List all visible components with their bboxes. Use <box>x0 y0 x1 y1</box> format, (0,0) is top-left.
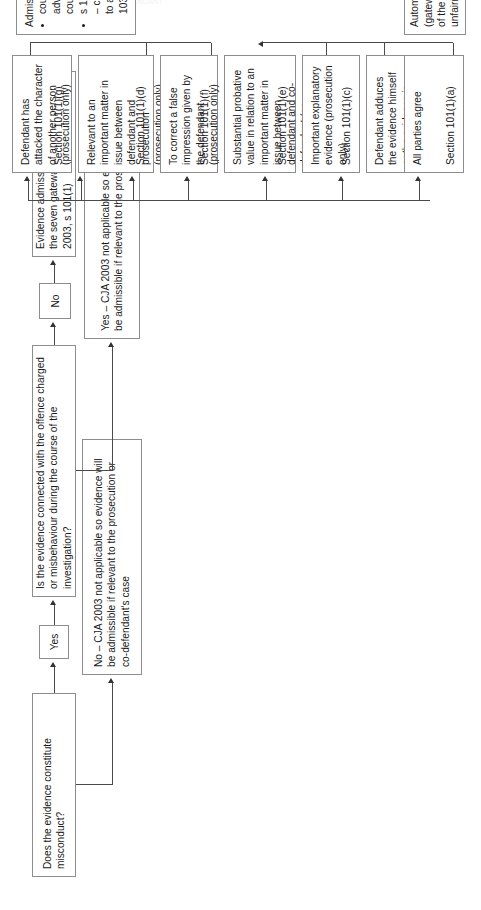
gateway-c-section: Section 101(1)(c) <box>339 87 352 165</box>
gateway-a-section: Section 101(1)(a) <box>443 86 456 165</box>
connector-gateway-spine <box>106 200 430 201</box>
gateway-box-g: Defendant has attacked the character of … <box>12 55 72 173</box>
arrow-gateway-d <box>77 176 83 181</box>
outcome-box-automatic: Automatically admissible if gateway is e… <box>404 0 466 35</box>
node-question-misconduct: Does the evidence constitute misconduct? <box>32 693 76 877</box>
connector-gateway-d <box>81 179 82 201</box>
gateway-a-body: All parties agree <box>412 91 423 165</box>
gateway-box-f: To correct a false impression given by t… <box>160 55 218 173</box>
connector-no-to-gateways <box>54 263 55 283</box>
collector-cond-spine <box>30 42 211 43</box>
outcome-box-conditional: Admissible if gateway established, but: … <box>16 0 136 35</box>
arrow-to-q1-no <box>108 678 114 683</box>
node-label-no: No <box>39 283 71 319</box>
connector-gateway-f <box>133 179 134 201</box>
gateway-box-c: Important explanatory evidence (prosecut… <box>302 55 360 173</box>
arrow-gateway-e <box>184 176 190 181</box>
node-label-yes: Yes <box>39 625 69 659</box>
node-label-yes-text: Yes <box>47 634 60 651</box>
flowchart-page: BAD CHARACTER OF THE DEFENDANT Does the … <box>0 0 481 910</box>
connector-yes-to-q2 <box>54 603 55 625</box>
node-question-connected-text: Is the evidence connected with the offen… <box>33 353 73 589</box>
gateway-f-section: Section 101(1)(f) <box>197 89 210 165</box>
connector-gateway-b <box>342 179 343 201</box>
gateway-box-a: All parties agree Section 101(1)(a) <box>404 55 464 173</box>
outcome-conditional-bullet-2: s 101(1)(d): propensity to commit offenc… <box>76 0 130 14</box>
outcome-automatic-text: Automatically admissible if gateway is e… <box>408 0 462 27</box>
connector-gateway-e <box>188 179 189 201</box>
gateway-box-e: Substantial probative value in relation … <box>224 55 296 173</box>
arrow-to-q2-yes-outcome <box>108 342 114 347</box>
connector-q1-to-no <box>76 784 112 785</box>
arrow-gateway-f <box>129 176 135 181</box>
node-question-misconduct-text: Does the evidence constitute misconduct? <box>40 701 67 869</box>
collector-f-out <box>211 43 212 55</box>
flowchart-rotation-wrapper: Does the evidence constitute misconduct?… <box>0 0 481 910</box>
arrow-to-no <box>50 322 56 327</box>
connector-q2-yes-horizontal <box>112 345 113 471</box>
arrow-to-q2 <box>50 600 56 605</box>
gateway-d-body: Relevant to an important matter in issue… <box>86 80 164 165</box>
connector-q1-to-yes <box>54 665 55 693</box>
collector-g-out <box>30 43 31 55</box>
arrow-gateway-a <box>415 176 421 181</box>
gateway-e-section: Section 101(1)(e) <box>275 86 288 165</box>
gateway-box-d: Relevant to an important matter in issue… <box>78 55 154 173</box>
gateway-g-section: Section 101(1)(g) <box>51 86 64 165</box>
arrow-to-yes <box>50 662 56 667</box>
gateway-f-body: To correct a false impression given by t… <box>168 75 219 165</box>
outcome-conditional-bullets: court must not admit evidence if it woul… <box>36 0 130 27</box>
connector-q2-to-yes-outcome <box>76 470 112 471</box>
connector-gateway-g <box>28 179 29 201</box>
connector-q2-to-no <box>54 325 55 345</box>
node-question-connected: Is the evidence connected with the offen… <box>32 345 76 597</box>
node-outcome-no-misconduct: No – CJA 2003 not applicable so evidence… <box>82 439 142 675</box>
connector-gateway-a <box>419 179 420 201</box>
collector-c-out <box>326 43 327 55</box>
collector-a-out <box>453 43 454 55</box>
arrow-gateway-b <box>338 176 344 181</box>
arrow-gateway-c <box>262 176 268 181</box>
arrow-to-gateways <box>50 260 56 265</box>
collector-d-out <box>146 43 147 55</box>
arrow-gateway-g <box>24 176 30 181</box>
gateway-d-section: Section 101(1)(d) <box>133 86 146 165</box>
flowchart-canvas: Does the evidence constitute misconduct?… <box>6 15 476 895</box>
collector-auto-spine <box>261 42 453 43</box>
node-label-no-text: No <box>48 294 61 307</box>
connector-gateway-g-riser <box>28 200 106 201</box>
collector-b-out <box>384 43 385 55</box>
connector-gateway-c <box>266 179 267 201</box>
outcome-conditional-bullet-1: court must not admit evidence if it woul… <box>36 0 76 14</box>
outcome-conditional-lead: Admissible if gateway established, but: <box>23 0 36 27</box>
node-outcome-no-misconduct-text: No – CJA 2003 not applicable so evidence… <box>91 447 131 667</box>
collector-auto-drop <box>261 42 262 43</box>
connector-q1-no-horizontal <box>112 681 113 785</box>
